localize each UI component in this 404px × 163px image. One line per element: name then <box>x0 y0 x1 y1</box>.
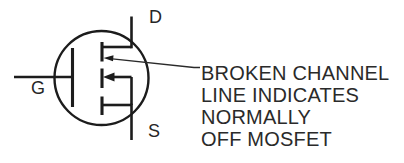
gate-terminal-label: G <box>31 78 45 98</box>
annotation-line: LINE INDICATES <box>201 84 389 106</box>
callout-leader-line <box>110 59 200 68</box>
annotation-line: OFF MOSFET <box>201 128 389 150</box>
annotation-text: BROKEN CHANNEL LINE INDICATES NORMALLY O… <box>201 62 389 150</box>
annotation-line: NORMALLY <box>201 106 389 128</box>
annotation-line: BROKEN CHANNEL <box>201 62 389 84</box>
drain-terminal-label: D <box>149 7 162 27</box>
source-terminal-label: S <box>148 121 160 141</box>
callout-arrowhead-icon <box>104 55 114 61</box>
mosfet-annotation-figure: D G S BROKEN CHANNEL LINE INDICATES NORM… <box>0 0 404 163</box>
